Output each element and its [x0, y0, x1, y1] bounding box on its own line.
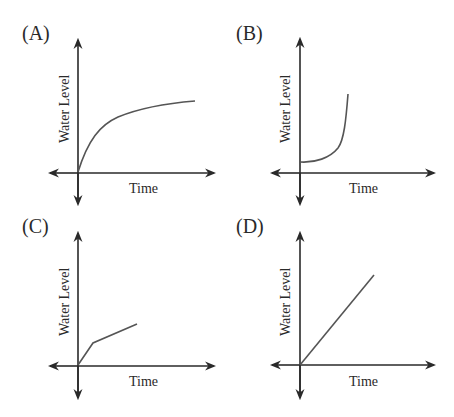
- panel-d-y-label: Water Level: [278, 267, 293, 336]
- figure-canvas: (A) Time Water Level (B) Time Water Leve…: [0, 0, 454, 417]
- panel-c-x-label: Time: [129, 374, 158, 389]
- panel-b-x-label: Time: [349, 181, 378, 196]
- panel-c-y-label: Water Level: [57, 267, 72, 336]
- panel-b-y-label: Water Level: [278, 74, 293, 143]
- panel-d: (D) Time Water Level: [236, 215, 434, 398]
- panel-d-label: (D): [236, 215, 264, 238]
- panel-a: (A) Time Water Level: [22, 22, 214, 204]
- panel-b: (B) Time Water Level: [236, 22, 434, 204]
- panel-a-x-label: Time: [129, 181, 158, 196]
- panel-a-curve: [78, 101, 195, 172]
- panel-c: (C) Time Water Level: [22, 215, 214, 398]
- panel-c-curve: [78, 324, 137, 365]
- panel-a-label: (A): [22, 22, 50, 45]
- panel-d-curve: [300, 275, 374, 365]
- panel-c-label: (C): [22, 215, 49, 238]
- panel-b-curve: [300, 94, 348, 162]
- panel-a-y-label: Water Level: [57, 74, 72, 143]
- panel-d-x-label: Time: [349, 374, 378, 389]
- panel-b-label: (B): [236, 22, 263, 45]
